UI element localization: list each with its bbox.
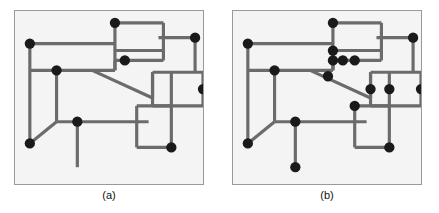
graph-edge (92, 70, 152, 98)
graph-vertex (290, 117, 300, 127)
graph-edge (30, 122, 57, 144)
graph-vertex (25, 138, 35, 148)
graph-vertex (25, 38, 35, 48)
panel-a (14, 10, 204, 185)
graph-vertex (323, 71, 333, 81)
graph-vertex (72, 117, 82, 127)
graph-vertex (51, 65, 61, 75)
graph-vertex (328, 55, 338, 65)
panel-b (232, 10, 422, 185)
graph-vertex (350, 101, 360, 111)
edge-group (248, 23, 421, 167)
edge-group (30, 23, 203, 167)
graph-vertex (290, 162, 300, 172)
panel-a-caption: (a) (14, 188, 204, 202)
graph-vertex (416, 84, 421, 94)
graph-vertex (384, 84, 394, 94)
graph-vertex (110, 18, 120, 28)
panel-a-drawing (15, 11, 203, 184)
graph-vertex (243, 38, 253, 48)
graph-vertex (328, 18, 338, 28)
graph-vertex (338, 55, 348, 65)
panel-b-drawing (233, 11, 421, 184)
panel-b-caption: (b) (232, 188, 422, 202)
graph-vertex (350, 55, 360, 65)
figure-container: (a) (b) (0, 0, 439, 213)
graph-vertex (243, 138, 253, 148)
graph-edge (310, 70, 370, 98)
graph-vertex (365, 84, 375, 94)
graph-vertex (120, 55, 130, 65)
graph-vertex (269, 65, 279, 75)
graph-edge (248, 122, 275, 144)
graph-vertex (198, 84, 203, 94)
graph-vertex (384, 142, 394, 152)
graph-vertex (166, 142, 176, 152)
graph-vertex (190, 33, 200, 43)
graph-vertex (408, 33, 418, 43)
graph-vertex (328, 45, 338, 55)
